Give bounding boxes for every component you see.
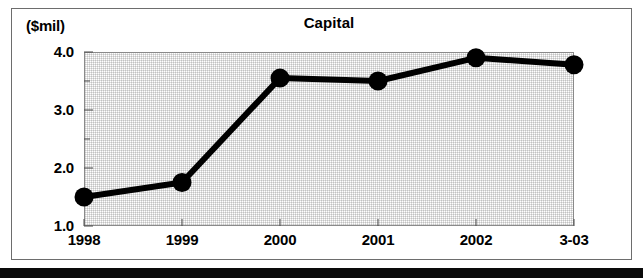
data-point-marker (75, 188, 94, 207)
data-point-marker (369, 72, 388, 91)
series-line-capital (84, 58, 574, 197)
x-axis-tick-label: 2001 (335, 231, 421, 248)
y-axis-unit-label: ($mil) (26, 17, 65, 34)
data-point-marker (467, 48, 486, 67)
x-axis-tick-label: 1999 (139, 231, 225, 248)
series-markers-capital (75, 48, 584, 206)
line-chart-canvas (84, 52, 574, 226)
page-bottom-rule (0, 268, 643, 278)
y-axis-tick-label: 3.0 (12, 101, 74, 118)
data-point-marker (565, 55, 584, 74)
x-axis-tick-label: 2002 (433, 231, 519, 248)
data-point-marker (271, 69, 290, 88)
x-axis-tick-label: 3-03 (531, 231, 617, 248)
x-axis-tick-label: 2000 (237, 231, 323, 248)
y-axis-tick-label: 2.0 (12, 159, 74, 176)
chart-page: ($mil) Capital 1.02.03.04.0 199819992000… (0, 0, 643, 278)
y-axis-tick-label: 4.0 (12, 43, 74, 60)
x-axis-tick-label: 1998 (41, 231, 127, 248)
chart-title: Capital (84, 14, 574, 31)
data-point-marker (173, 173, 192, 192)
